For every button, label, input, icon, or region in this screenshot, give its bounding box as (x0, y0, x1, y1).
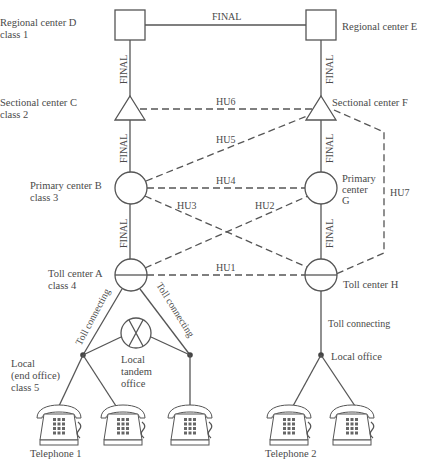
sectional-center-C-triangle (115, 96, 145, 120)
label-HU3: HU3 (177, 200, 196, 211)
primary-center-B-circle (115, 172, 147, 204)
telephones (37, 405, 374, 445)
label-HU7: HU7 (390, 187, 409, 198)
label-telephone-2: Telephone 2 (265, 448, 316, 459)
edge-HU5 (146, 114, 312, 181)
label-E-F: FINAL (324, 55, 335, 84)
label-primary-center-G-2: center (342, 184, 368, 195)
label-HU6: HU6 (216, 96, 235, 107)
label-B-A: FINAL (118, 219, 129, 248)
telephone-icon (267, 405, 311, 445)
phone-line-4 (293, 355, 321, 406)
label-HU4: HU4 (216, 175, 235, 186)
telephone-icon (101, 405, 145, 445)
label-sectional-center-F: Sectional center F (332, 97, 408, 108)
label-primary-center-B: Primary center B (30, 180, 102, 191)
label-D-C: FINAL (118, 55, 129, 84)
telephone-icon (168, 405, 212, 445)
nodes (115, 10, 337, 291)
label-regional-center-D: Regional center D (0, 17, 77, 28)
label-regional-center-D-class: class 1 (0, 29, 28, 40)
toll-hierarchy-diagram: FINAL FINAL FINAL FINAL FINAL FINAL FINA… (0, 0, 433, 460)
label-HU1: HU1 (216, 262, 235, 273)
label-local-tandem-3: office (121, 378, 146, 389)
tandem-link-right (151, 337, 190, 355)
label-local-office-right: Local office (331, 351, 382, 362)
label-D-E: FINAL (212, 11, 241, 22)
telephone-icon (330, 405, 374, 445)
regional-center-E-square (306, 10, 336, 40)
primary-center-G-circle (305, 172, 337, 204)
label-G-H: FINAL (324, 219, 335, 248)
label-C-B: FINAL (118, 134, 129, 163)
label-local-tandem-2: tandem (121, 366, 152, 377)
label-toll-center-A: Toll center A (48, 268, 103, 279)
phone-line-5 (321, 355, 355, 406)
label-toll-center-A-class: class 4 (48, 280, 77, 291)
label-HU2: HU2 (255, 200, 274, 211)
label-toll-center-H: Toll center H (343, 279, 399, 290)
label-sectional-center-C-class: class 2 (0, 109, 28, 120)
label-toll-connecting-H: Toll connecting (328, 318, 390, 329)
label-HU5: HU5 (216, 134, 235, 145)
label-end-office-2: (end office) (11, 370, 61, 382)
label-telephone-1: Telephone 1 (30, 448, 81, 459)
label-toll-connecting-right: Toll connecting (154, 280, 196, 339)
label-regional-center-E: Regional center E (342, 21, 417, 32)
label-end-office-3: class 5 (11, 382, 39, 393)
telephone-icon (37, 405, 81, 445)
label-F-G: FINAL (324, 134, 335, 163)
label-local-tandem-1: Local (121, 354, 145, 365)
phone-line-1 (59, 355, 83, 406)
label-primary-center-G-3: G (342, 195, 350, 206)
local-right (293, 291, 355, 406)
regional-center-D-square (115, 10, 145, 40)
label-end-office-1: Local (11, 358, 35, 369)
label-sectional-center-C: Sectional center C (0, 97, 77, 108)
label-primary-center-G-1: Primary (342, 173, 377, 184)
node-labels: Regional center D class 1 Regional cente… (0, 17, 417, 459)
label-primary-center-B-class: class 3 (30, 192, 58, 203)
phone-line-2 (83, 355, 116, 406)
